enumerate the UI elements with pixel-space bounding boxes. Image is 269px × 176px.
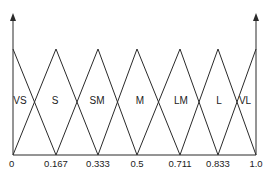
x-tick-label: 0 <box>9 158 14 169</box>
set-label-lm: LM <box>174 95 188 106</box>
set-label-l: L <box>216 95 222 106</box>
x-tick-label: 0.167 <box>44 158 68 169</box>
set-label-sm: SM <box>90 95 105 106</box>
set-label-vs: VS <box>13 95 27 106</box>
x-tick-label: 0.711 <box>168 158 191 169</box>
left-arrow-icon <box>10 13 16 21</box>
axes <box>13 18 256 155</box>
tick-labels: 00.1670.3330.50.7110.8331.0 <box>9 158 263 169</box>
set-label-m: M <box>136 95 144 106</box>
x-tick-label: 1.0 <box>249 158 262 169</box>
set-label-vl: VL <box>239 95 252 106</box>
x-tick-label: 0.333 <box>86 158 110 169</box>
right-arrow-icon <box>253 13 259 21</box>
set-labels: VSSSMMLMLVL <box>13 95 251 106</box>
x-tick-label: 0.5 <box>130 158 143 169</box>
membership-function-diagram: VSSSMMLMLVL 00.1670.3330.50.7110.8331.0 <box>0 0 269 176</box>
set-label-s: S <box>52 95 59 106</box>
x-tick-label: 0.833 <box>206 158 230 169</box>
